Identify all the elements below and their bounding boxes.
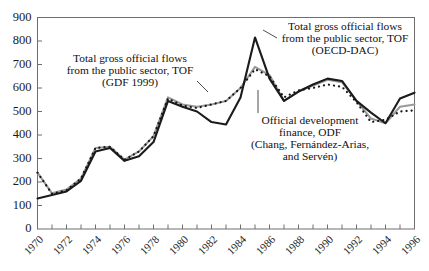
annotation-oecd-line1: Total gross official flows — [288, 20, 402, 32]
annotation-oecd-line2: from the public sector, TOF — [282, 32, 409, 44]
y-axis-tick-label: 800 — [13, 33, 32, 47]
annotation-gdf-line2: from the public sector, TOF — [67, 64, 194, 76]
chart-figure: 0100200300400500600700800900 19701972197… — [0, 0, 429, 271]
y-axis-tick-label: 700 — [13, 57, 32, 71]
annotation-odf-line2: finance, ODF — [279, 126, 341, 138]
y-axis-tick-label: 500 — [13, 104, 32, 118]
y-axis-tick-label: 100 — [13, 198, 32, 212]
annotation-odf-line4: and Servén) — [283, 150, 338, 163]
y-axis-tick-label: 400 — [13, 127, 32, 141]
line-chart-canvas: 0100200300400500600700800900 19701972197… — [0, 0, 429, 271]
y-axis-tick-label: 200 — [13, 174, 32, 188]
annotation-gdf-line1: Total gross official flows — [73, 52, 187, 64]
y-axis-tick-label: 900 — [13, 10, 32, 24]
y-axis-tick-label: 0 — [25, 221, 31, 235]
y-axis-tick-label: 300 — [13, 151, 32, 165]
annotation-odf-line1: Official development — [262, 114, 360, 126]
y-axis-tick-label: 600 — [13, 80, 32, 94]
annotation-oecd-line3: (OECD-DAC) — [312, 44, 379, 57]
annotation-gdf-line3: (GDF 1999) — [102, 76, 158, 89]
